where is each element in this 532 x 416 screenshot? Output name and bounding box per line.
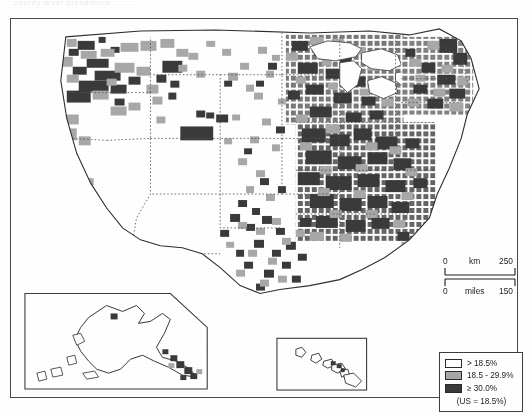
- lower48-counties: [51, 24, 489, 303]
- scale-km-bar: [445, 268, 515, 275]
- scale-miles-bar: [445, 279, 515, 286]
- legend-label-low: > 18.5%: [467, 359, 497, 368]
- legend-label-mid: 18.5 - 29.9%: [467, 371, 513, 380]
- map-legend: > 18.5% 18.5 - 29.9% ≥ 30.0% (US = 18.5%…: [439, 352, 523, 412]
- legend-swatch-high: [445, 384, 462, 393]
- scale-km-max: 250: [499, 256, 513, 266]
- map-frame: 0 km 250 0 miles 150 > 18.5% 18.5 - 29.9…: [10, 18, 518, 398]
- scanned-map-page: county level prevalence . . . .: [0, 0, 532, 416]
- scale-bar: 0 km 250 0 miles 150: [441, 255, 523, 295]
- legend-swatch-low: [445, 359, 462, 368]
- alaska-inset: [25, 294, 207, 389]
- legend-label-high: ≥ 30.0%: [467, 384, 497, 393]
- legend-swatch-mid: [445, 371, 462, 380]
- legend-item-high: ≥ 30.0%: [445, 382, 518, 395]
- us-county-choropleth: [11, 19, 517, 397]
- scale-miles-min: 0: [443, 286, 448, 295]
- legend-national-note: (US = 18.5%): [445, 397, 518, 406]
- legend-item-mid: 18.5 - 29.9%: [445, 370, 518, 383]
- legend-item-low: > 18.5%: [445, 357, 518, 370]
- scale-miles-unit: miles: [465, 286, 485, 295]
- hawaii-inset: [277, 338, 367, 390]
- scale-miles-max: 150: [499, 286, 513, 295]
- scale-km-unit: km: [469, 256, 480, 266]
- page-header-ghost-text: county level prevalence . . . .: [14, 0, 434, 10]
- scale-km-min: 0: [443, 256, 448, 266]
